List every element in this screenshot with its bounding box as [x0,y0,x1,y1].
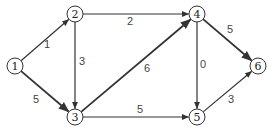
node-label: 1 [12,60,19,73]
node-label: 6 [255,60,262,73]
node-label: 4 [194,8,201,21]
edge-weight-label: 2 [127,15,133,27]
node-label: 5 [194,111,201,124]
edge-3-4 [81,19,190,111]
edge-weight-label: 5 [137,103,143,115]
edge-weight-label: 3 [79,55,85,67]
node-3: 3 [67,109,83,125]
node-2: 2 [67,6,83,22]
edge-1-3 [21,71,68,111]
node-6: 6 [250,58,266,74]
edges-layer [21,14,251,117]
edge-weight-label: 5 [33,93,39,105]
edge-weight-label: 5 [227,23,233,35]
node-1: 1 [7,58,23,74]
weight-labels-layer: 152365053 [33,15,234,115]
edge-weight-label: 0 [200,58,206,70]
edge-weight-label: 6 [144,62,150,74]
node-4: 4 [189,6,205,22]
node-label: 3 [72,111,79,124]
edge-weight-label: 1 [44,38,50,50]
edge-5-6 [203,71,251,111]
node-5: 5 [189,109,205,125]
graph-diagram: 152365053 123456 [0,0,267,135]
edge-weight-label: 3 [228,93,234,105]
node-label: 2 [72,8,79,21]
